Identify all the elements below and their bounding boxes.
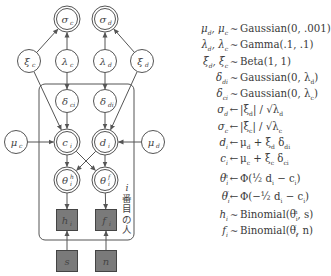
node-f-i: fi bbox=[96, 210, 117, 231]
equation-rhs: Gamma(.1, .1) bbox=[240, 37, 313, 53]
svg-text:θ: θ bbox=[62, 175, 68, 186]
plate-label: i番目の人 bbox=[122, 182, 132, 235]
svg-text:h: h bbox=[62, 215, 68, 226]
node-mu-c: μc bbox=[5, 131, 28, 154]
equation-row: di←μd + ξd δdi bbox=[182, 135, 327, 151]
equation-row: θif←Φ(−½ di − ci) bbox=[182, 186, 327, 204]
equation-operator: ← bbox=[228, 102, 240, 118]
equation-row: σc←|ξc| / √λc bbox=[182, 119, 327, 135]
node-lambda-d: λd bbox=[94, 50, 117, 73]
equation-row: μd, μc∼Gaussian(0, .001) bbox=[182, 21, 327, 37]
nodes: σcσdξcλcλdξdδciδdiμccidiμdθihθifhifisn bbox=[5, 6, 165, 272]
node-sigma-c: σc bbox=[54, 6, 80, 32]
graphical-model: σcσdξcλcλdξdδciδdiμccidiμdθihθifhifisn i… bbox=[0, 0, 170, 276]
svg-text:番: 番 bbox=[122, 193, 132, 204]
node-d-i: di bbox=[92, 129, 118, 155]
edge-xi_d-to-sigma_d bbox=[114, 29, 134, 52]
equation-operator: ∼ bbox=[228, 21, 240, 37]
equation-operator: ← bbox=[228, 119, 240, 135]
node-delta-c: δci bbox=[56, 90, 79, 113]
svg-text:ci: ci bbox=[70, 101, 75, 108]
node-n: n bbox=[96, 251, 117, 272]
equation-row: hi∼Binomial(θih, s) bbox=[182, 204, 327, 220]
equation-row: λd, λc∼Gamma(.1, .1) bbox=[182, 37, 327, 53]
node-c-i: ci bbox=[54, 129, 80, 155]
node-theta-h: θih bbox=[54, 167, 80, 193]
node-xi-c: ξc bbox=[18, 50, 41, 73]
equation-row: δci∼Gaussian(0, λc) bbox=[182, 86, 327, 102]
svg-text:の: の bbox=[122, 214, 132, 225]
equation-rhs: Binomial(θif, n) bbox=[240, 220, 313, 243]
svg-text:μ: μ bbox=[11, 137, 18, 148]
svg-text:δ: δ bbox=[100, 96, 106, 107]
node-h-i: hi bbox=[57, 210, 78, 231]
equation-operator: ← bbox=[228, 135, 240, 151]
svg-text:μ: μ bbox=[148, 137, 155, 148]
node-xi-d: ξd bbox=[131, 50, 154, 73]
equation-lhs: fi bbox=[182, 223, 228, 243]
node-delta-d: δdi bbox=[94, 90, 117, 113]
equation-operator: ∼ bbox=[228, 54, 240, 70]
svg-text:θ: θ bbox=[100, 175, 106, 186]
equation-row: ξd, ξc∼Beta(1, 1) bbox=[182, 54, 327, 70]
equation-operator: ← bbox=[228, 189, 240, 205]
equation-row: δdi∼Gaussian(0, λd) bbox=[182, 70, 327, 86]
svg-text:h: h bbox=[70, 173, 74, 180]
equation-operator: ∼ bbox=[228, 86, 240, 102]
svg-text:λ: λ bbox=[99, 56, 106, 67]
equation-operator: ∼ bbox=[228, 70, 240, 86]
svg-text:d: d bbox=[100, 137, 106, 148]
svg-text:di: di bbox=[108, 101, 114, 108]
equation-rhs: Beta(1, 1) bbox=[240, 54, 291, 70]
equation-rhs: Gaussian(0, .001) bbox=[240, 21, 331, 37]
svg-text:s: s bbox=[64, 256, 69, 267]
equation-operator: ∼ bbox=[228, 37, 240, 53]
equation-row: fi∼Binomial(θif, n) bbox=[182, 220, 327, 236]
node-s: s bbox=[57, 251, 78, 272]
svg-text:d: d bbox=[108, 61, 112, 68]
node-sigma-d: σd bbox=[92, 6, 118, 32]
svg-text:人: 人 bbox=[122, 224, 132, 235]
node-lambda-c: λc bbox=[56, 50, 79, 73]
equation-operator: ∼ bbox=[228, 223, 240, 239]
svg-text:d: d bbox=[145, 61, 149, 68]
svg-text:i: i bbox=[125, 182, 128, 193]
svg-text:d: d bbox=[108, 19, 112, 26]
svg-text:σ: σ bbox=[100, 14, 108, 25]
svg-text:δ: δ bbox=[62, 96, 68, 107]
node-mu-d: μd bbox=[142, 131, 165, 154]
svg-text:i: i bbox=[70, 220, 72, 227]
edge-xi_c-to-sigma_c bbox=[37, 29, 58, 52]
svg-text:d: d bbox=[156, 142, 160, 149]
svg-text:ξ: ξ bbox=[137, 56, 143, 67]
svg-text:i: i bbox=[108, 142, 110, 149]
equation-operator: ← bbox=[228, 151, 240, 167]
equation-row: ci←μc + ξc δci bbox=[182, 151, 327, 167]
svg-text:ξ: ξ bbox=[24, 56, 30, 67]
model-equations: μd, μc∼Gaussian(0, .001)λd, λc∼Gamma(.1,… bbox=[182, 21, 327, 236]
svg-text:λ: λ bbox=[61, 56, 68, 67]
svg-text:c: c bbox=[62, 137, 68, 148]
node-theta-f: θif bbox=[92, 167, 118, 193]
svg-text:i: i bbox=[70, 180, 72, 187]
svg-text:σ: σ bbox=[62, 14, 70, 25]
svg-text:i: i bbox=[109, 220, 111, 227]
svg-text:n: n bbox=[103, 256, 109, 267]
svg-text:i: i bbox=[108, 180, 110, 187]
equation-operator: ← bbox=[228, 171, 240, 187]
svg-text:i: i bbox=[70, 142, 72, 149]
equation-row: θih←Φ(½ di − ci) bbox=[182, 168, 327, 186]
svg-text:目: 目 bbox=[122, 203, 132, 214]
